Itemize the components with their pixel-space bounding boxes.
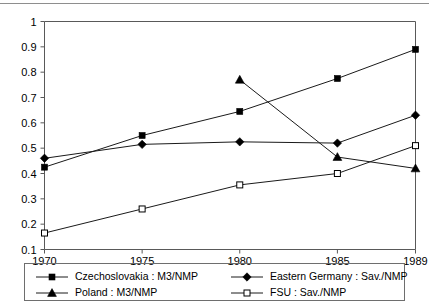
chart-figure: 0.10.20.30.40.50.60.70.80.91 19701975198…: [0, 0, 429, 308]
series-line: [45, 49, 416, 167]
data-point: [138, 140, 146, 148]
data-point: [333, 153, 342, 161]
data-point: [413, 143, 419, 149]
legend-entry-label: Czechoslovakia : M3/NMP: [75, 270, 198, 282]
legend-entry-1[interactable]: Czechoslovakia : M3/NMP: [36, 270, 198, 282]
data-point: [139, 133, 145, 139]
x-tick-label: 1980: [228, 255, 252, 267]
legend-entry-4[interactable]: FSU : Sav./NMP: [231, 286, 346, 298]
data-point: [334, 76, 340, 82]
series-layer: [40, 46, 420, 236]
legend-entry-2[interactable]: Eastern Germany : Sav./NMP: [231, 270, 408, 282]
top-divider-rule: [0, 3, 429, 4]
y-tick-label: 0.8: [21, 66, 36, 78]
series-line: [45, 146, 416, 233]
legend-entry-3[interactable]: Poland : M3/NMP: [36, 286, 157, 298]
series-2: [40, 111, 419, 162]
legend-entry-label: FSU : Sav./NMP: [270, 286, 346, 298]
data-point: [235, 75, 244, 83]
y-tick-label: 0.4: [21, 168, 36, 180]
data-point: [42, 164, 48, 170]
data-point: [413, 46, 419, 52]
x-tick-label: 1975: [130, 255, 154, 267]
data-point: [139, 206, 145, 212]
y-tick-label: 0.9: [21, 41, 36, 53]
legend-entry-label: Poland : M3/NMP: [75, 286, 157, 298]
data-point: [236, 138, 244, 146]
legend-marker: [244, 290, 250, 296]
y-tick-label: 0.6: [21, 117, 36, 129]
data-point: [40, 154, 48, 162]
series-4: [42, 143, 419, 236]
data-point: [237, 108, 243, 114]
chart-legend: Czechoslovakia : M3/NMPEastern Germany :…: [25, 264, 408, 301]
y-tick-label: 0.3: [21, 193, 36, 205]
series-1: [42, 46, 419, 170]
x-tick-label: 1970: [32, 255, 56, 267]
legend-marker: [49, 274, 55, 280]
y-axis-ticks: 0.10.20.30.40.50.60.70.80.91: [21, 16, 44, 256]
legend-marker: [243, 273, 251, 281]
y-tick-label: 1: [30, 16, 36, 28]
y-tick-label: 0.7: [21, 92, 36, 104]
data-point: [237, 182, 243, 188]
line-chart: 0.10.20.30.40.50.60.70.80.91 19701975198…: [0, 0, 429, 308]
data-point: [334, 171, 340, 177]
y-tick-label: 0.2: [21, 218, 36, 230]
data-point: [42, 230, 48, 236]
x-tick-label: 1989: [403, 255, 427, 267]
y-tick-label: 0.5: [21, 142, 36, 154]
series-line: [45, 115, 416, 158]
data-point: [333, 139, 341, 147]
x-tick-label: 1985: [325, 255, 349, 267]
legend-entry-label: Eastern Germany : Sav./NMP: [270, 270, 408, 282]
data-point: [411, 111, 419, 119]
